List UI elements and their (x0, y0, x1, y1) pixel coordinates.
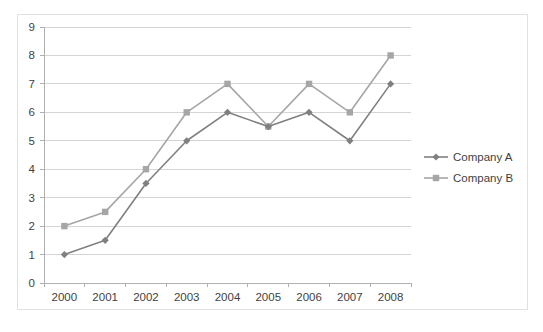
data-series (61, 52, 394, 258)
x-tick-label-2006: 2006 (296, 291, 322, 303)
y-tick-label-9: 9 (29, 21, 35, 33)
y-tick-label-1: 1 (29, 249, 35, 261)
y-tick-label-6: 6 (29, 106, 35, 118)
x-tick-label-2001: 2001 (92, 291, 118, 303)
data-point-1-0 (61, 223, 67, 229)
line-chart: 0123456789 20002001200220032004200520062… (0, 0, 543, 332)
y-axis-tick-labels: 0123456789 (29, 21, 36, 289)
legend-marker-1 (433, 175, 439, 181)
y-tick-label-5: 5 (29, 135, 35, 147)
data-point-1-7 (347, 109, 353, 115)
data-point-1-1 (102, 209, 108, 215)
x-tick-label-2002: 2002 (133, 291, 159, 303)
data-point-0-0 (61, 251, 68, 258)
x-tick-label-2004: 2004 (215, 291, 241, 303)
y-tick-label-0: 0 (29, 277, 35, 289)
legend-item-company-a[interactable]: Company A (424, 151, 513, 163)
chart-axes (40, 27, 411, 287)
data-point-1-2 (143, 166, 149, 172)
y-tick-label-7: 7 (29, 78, 35, 90)
x-tick-label-2000: 2000 (52, 291, 78, 303)
x-axis-tick-labels: 200020012002200320042005200620072008 (52, 291, 404, 303)
chart-legend: Company ACompany B (424, 151, 513, 184)
data-point-1-3 (184, 109, 190, 115)
x-tick-label-2003: 2003 (174, 291, 200, 303)
gridlines (44, 27, 411, 255)
legend-item-company-b[interactable]: Company B (424, 172, 513, 184)
data-point-1-8 (387, 52, 393, 58)
x-tick-label-2008: 2008 (378, 291, 404, 303)
legend-label-0: Company A (453, 151, 513, 163)
y-tick-label-2: 2 (29, 220, 35, 232)
y-tick-label-3: 3 (29, 192, 35, 204)
y-tick-label-8: 8 (29, 49, 35, 61)
data-point-1-4 (224, 81, 230, 87)
legend-marker-0 (432, 153, 439, 160)
y-tick-label-4: 4 (29, 163, 36, 175)
x-tick-label-2007: 2007 (337, 291, 363, 303)
legend-label-1: Company B (453, 172, 513, 184)
data-point-1-6 (306, 81, 312, 87)
x-tick-label-2005: 2005 (255, 291, 281, 303)
